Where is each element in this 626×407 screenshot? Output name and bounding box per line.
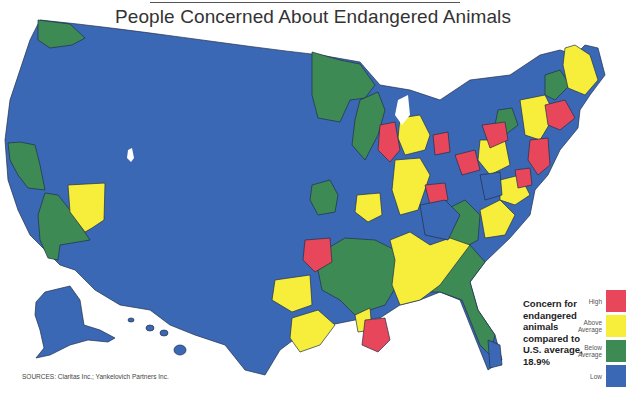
region-new-orleans <box>362 318 390 352</box>
legend-swatch-above-average <box>606 315 626 337</box>
legend-swatch-high <box>606 290 626 312</box>
region-detroit <box>433 132 450 155</box>
legend-label: High <box>562 290 602 312</box>
legend-label: Low <box>562 365 602 387</box>
region-hawaii-2 <box>160 330 168 336</box>
legend-item-below-average: Below Average <box>567 340 626 362</box>
legend-swatch-below-average <box>606 340 626 362</box>
legend-label: Above Average <box>562 315 602 337</box>
region-hawaii-3 <box>146 325 154 331</box>
region-miami-low <box>488 340 502 368</box>
region-baltimore <box>515 168 532 188</box>
legend-label: Below Average <box>562 340 602 362</box>
region-alaska <box>35 286 115 358</box>
legend-item-low: Low <box>567 365 626 387</box>
region-hawaii-1 <box>174 345 186 355</box>
sources-note: SOURCES: Claritas Inc.; Yankelovich Part… <box>22 373 169 380</box>
region-hawaii-4 <box>128 318 134 322</box>
legend-item-above-average: Above Average <box>567 315 626 337</box>
legend-swatch-low <box>606 365 626 387</box>
legend-item-high: High <box>567 290 626 312</box>
